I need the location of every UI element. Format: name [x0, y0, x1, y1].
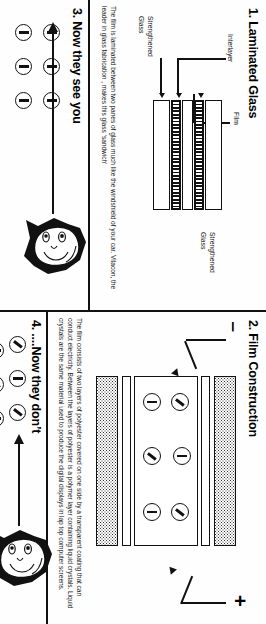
crystal-scattered-6: [0, 410, 4, 427]
layer-film: [182, 100, 193, 210]
crystal-scattered-5: [9, 404, 26, 421]
label-strengthened-glass-top: Strengthened Glass: [199, 232, 216, 273]
leader-interlayer-horizontal: [177, 58, 179, 94]
arrow-negative: [171, 367, 181, 376]
panel-2-title: 2. Film Construction: [246, 320, 260, 437]
layer-polyester-bottom: [96, 376, 118, 546]
light-ray-blocked: [18, 442, 20, 526]
layer-interlayer-bottom: [171, 100, 181, 210]
layer-coating-bottom: [122, 376, 131, 546]
leader-interlayer: [178, 58, 226, 60]
crystal-scattered-4: [0, 376, 4, 393]
label-strengthened-glass-bottom: Strengthened Glass: [137, 16, 154, 57]
crystal-scattered-2: [0, 342, 4, 359]
wire-positive: [182, 602, 226, 604]
light-ray-transmitted: [52, 30, 54, 214]
layer-coating-top: [201, 376, 210, 546]
crystal-scattered-3: [9, 370, 26, 387]
crystal-random-1: [171, 393, 189, 411]
arrow-interlayer-upper: [176, 93, 182, 98]
arrow-positive: [167, 567, 177, 576]
arrow-interlayer-lower: [159, 93, 165, 98]
crystal-random-3: [173, 447, 191, 465]
layer-strengthened-glass-bottom: [153, 100, 170, 210]
divider-panel-1-3: [88, 0, 90, 310]
panel-3-title: 3. Now they see you: [70, 8, 84, 124]
light-ray-arrowhead: [48, 22, 58, 32]
light-ray-blocked-arrowhead: [14, 434, 24, 444]
panel-film-construction: 2. Film Construction ‒ + The film consis…: [0, 312, 266, 624]
crystal-aligned-4: [15, 58, 32, 75]
label-interlayer: Interlayer: [225, 34, 234, 62]
layer-polyester-top: [214, 376, 236, 546]
scanned-figure-canvas: 1. Laminated Glass Interlayer Film Stren…: [0, 0, 266, 624]
crystal-aligned-6: [15, 92, 32, 109]
viewer-face-seeing: [22, 216, 88, 278]
panel-1-title: 1. Laminated Glass: [246, 8, 260, 118]
crystal-aligned-2: [15, 24, 32, 41]
viewer-face-blocked: [0, 528, 54, 590]
panel-4-title: 4. ....Now they don’t: [29, 320, 43, 433]
crystal-random-4: [143, 447, 161, 465]
terminal-positive: +: [230, 595, 250, 607]
panel-1-body: The film is laminated between two panes …: [100, 6, 118, 306]
panel-laminated-glass: 1. Laminated Glass Interlayer Film Stren…: [0, 0, 266, 312]
arrow-film: [198, 93, 204, 98]
layer-strengthened-glass-top: [205, 100, 222, 210]
terminal-negative: ‒: [225, 322, 242, 331]
wire-negative: [186, 339, 226, 341]
crystal-random-6: [143, 503, 161, 521]
crystal-random-5: [171, 503, 189, 521]
crystal-random-2: [143, 393, 161, 411]
wire-negative-diagonal: [184, 341, 197, 369]
leader-interlayer-lower: [160, 58, 162, 94]
wire-positive-diagonal: [180, 576, 193, 604]
label-film: Film: [231, 112, 240, 125]
liquid-crystal-polymer-layer: [134, 376, 198, 546]
crystal-scattered-1: [9, 336, 26, 353]
layer-interlayer-top: [194, 100, 204, 210]
panel-2-body: The film consists of two layers of polye…: [57, 318, 84, 618]
